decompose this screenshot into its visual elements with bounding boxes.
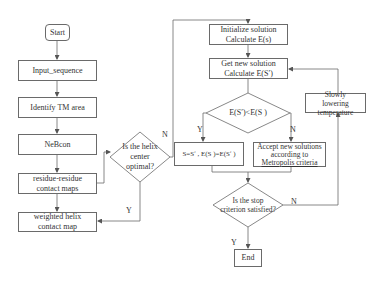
getnew-line-1: Get new solution xyxy=(221,59,276,69)
getnew-line-2: Calculate E(Sʹ) xyxy=(224,69,273,79)
accept-update-node: S=Sʹ , E(S )=E(Sʹ ) xyxy=(174,142,244,166)
energy-decision-text: E(Sʹ)<E(S ) xyxy=(218,108,278,118)
stop-yes-label: Y xyxy=(231,238,237,247)
nebcon-node: NeBcon xyxy=(18,134,97,155)
initialize-line-1: Initialize solution xyxy=(220,25,276,35)
lower-temp-node: Slowly lowering temperature xyxy=(305,93,366,113)
identify-tm-node: Identify TM area xyxy=(18,97,97,118)
edge-energy-yes xyxy=(203,113,206,141)
stop-decision-text: Is the stop criterion satisfied? xyxy=(219,195,277,215)
metropolis-node: Accept new solutions according to Metrop… xyxy=(253,142,326,167)
helix-decision-text: Is the helix center optimal? xyxy=(117,147,163,167)
energy-yes-label: Y xyxy=(197,125,203,134)
energy-no-label: N xyxy=(290,125,296,134)
edge-residue-helix xyxy=(97,152,110,183)
initialize-node: Initialize solution Calculate E(s) xyxy=(209,24,288,45)
input-sequence-node: Input_sequence xyxy=(18,60,97,81)
helix-no-label: N xyxy=(162,130,168,139)
start-node: Start xyxy=(45,24,70,41)
end-node: End xyxy=(234,249,262,267)
metropolis-line-3: Metropolis criteria xyxy=(261,159,317,167)
get-new-solution-node: Get new solution Calculate E(Sʹ) xyxy=(209,58,288,79)
residue-maps-node: residue-residue contact maps xyxy=(18,173,97,194)
helix-yes-label: Y xyxy=(126,206,132,215)
edge-helix-yes xyxy=(98,182,140,221)
initialize-line-2: Calculate E(s) xyxy=(226,35,272,45)
weighted-map-node: weighted helix contact map xyxy=(18,212,97,232)
stop-no-label: N xyxy=(291,197,297,206)
